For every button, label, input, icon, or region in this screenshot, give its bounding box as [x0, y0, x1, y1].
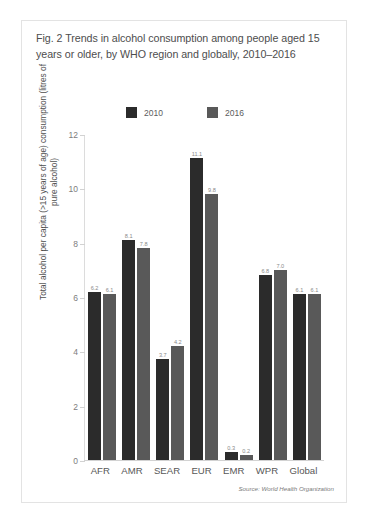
- bar-WPR-2016[interactable]: 7.0: [274, 135, 287, 460]
- bar-group-SEAR: 3.74.2: [156, 135, 184, 460]
- x-axis-label-EUR: EUR: [191, 465, 211, 476]
- y-tick-mark: [80, 461, 85, 462]
- legend-swatch-icon: [207, 107, 218, 118]
- y-tick-label: 8: [58, 239, 78, 249]
- bar-rect[interactable]: [259, 275, 272, 460]
- bar-EUR-2016[interactable]: 9.8: [205, 135, 218, 460]
- bar-AFR-2010[interactable]: 6.2: [88, 135, 101, 460]
- bar-SEAR-2016[interactable]: 4.2: [171, 135, 184, 460]
- bar-value-label: 6.1: [311, 287, 319, 293]
- bar-EMR-2010[interactable]: 0.3: [225, 135, 238, 460]
- chart-legend: 20102016: [22, 107, 348, 118]
- bar-group-EMR: 0.30.2: [225, 135, 253, 460]
- bar-AFR-2016[interactable]: 6.1: [103, 135, 116, 460]
- y-tick-label: 2: [58, 402, 78, 412]
- figure-card: Fig. 2 Trends in alcohol consumption amo…: [21, 20, 347, 503]
- y-axis-title: Total alcohol per capita (>15 years of a…: [38, 62, 60, 302]
- bar-rect[interactable]: [137, 248, 150, 460]
- bar-value-label: 6.2: [91, 285, 99, 291]
- bar-rect[interactable]: [293, 294, 306, 460]
- bar-EMR-2016[interactable]: 0.2: [240, 135, 253, 460]
- bar-rect[interactable]: [225, 452, 238, 460]
- bar-value-label: 11.1: [192, 151, 202, 157]
- plot-area: 024681012 6.26.18.17.83.74.211.19.80.30.…: [84, 135, 324, 461]
- y-tick-label: 6: [58, 293, 78, 303]
- x-axis-line: [84, 460, 324, 461]
- bar-rect[interactable]: [156, 359, 169, 460]
- bar-value-label: 4.2: [174, 339, 182, 345]
- bar-rect[interactable]: [171, 346, 184, 460]
- bar-EUR-2010[interactable]: 11.1: [190, 135, 203, 460]
- bar-value-label: 6.8: [261, 268, 269, 274]
- y-tick-label: 4: [58, 347, 78, 357]
- bar-WPR-2010[interactable]: 6.8: [259, 135, 272, 460]
- legend-label: 2016: [225, 108, 244, 118]
- figure-title: Fig. 2 Trends in alcohol consumption amo…: [36, 31, 336, 62]
- bar-rect[interactable]: [88, 292, 101, 460]
- bar-value-label: 0.3: [227, 445, 235, 451]
- bar-rect[interactable]: [274, 270, 287, 460]
- bar-value-label: 8.1: [125, 233, 133, 239]
- bar-rect[interactable]: [122, 240, 135, 460]
- bar-group-AMR: 8.17.8: [122, 135, 150, 460]
- x-axis-label-SEAR: SEAR: [154, 465, 180, 476]
- bar-rect[interactable]: [103, 294, 116, 460]
- bar-rect[interactable]: [190, 158, 203, 460]
- bar-Global-2010[interactable]: 6.1: [293, 135, 306, 460]
- bar-value-label: 6.1: [106, 287, 114, 293]
- legend-swatch-icon: [126, 107, 137, 118]
- y-tick-label: 10: [58, 184, 78, 194]
- bar-rect[interactable]: [205, 194, 218, 460]
- bar-group-Global: 6.16.1: [293, 135, 321, 460]
- bar-SEAR-2010[interactable]: 3.7: [156, 135, 169, 460]
- legend-item-2010: 2010: [126, 107, 163, 118]
- x-axis-label-EMR: EMR: [223, 465, 244, 476]
- bar-AMR-2010[interactable]: 8.1: [122, 135, 135, 460]
- bar-group-EUR: 11.19.8: [190, 135, 218, 460]
- x-axis-category-labels: AFRAMRSEAREUREMRWPRGlobal: [85, 465, 323, 476]
- x-axis-label-AFR: AFR: [91, 465, 110, 476]
- bar-groups: 6.26.18.17.83.74.211.19.80.30.26.87.06.1…: [85, 135, 324, 460]
- bar-value-label: 7.0: [276, 263, 284, 269]
- y-tick-label: 0: [58, 456, 78, 466]
- source-note: Source: World Health Organization: [238, 485, 334, 492]
- legend-label: 2010: [144, 108, 163, 118]
- bar-rect[interactable]: [240, 455, 253, 460]
- y-tick-label: 12: [58, 130, 78, 140]
- bar-value-label: 0.2: [242, 448, 250, 454]
- x-axis-label-AMR: AMR: [121, 465, 142, 476]
- bar-group-WPR: 6.87.0: [259, 135, 287, 460]
- bar-group-AFR: 6.26.1: [88, 135, 116, 460]
- bar-value-label: 6.1: [296, 287, 304, 293]
- bar-value-label: 7.8: [140, 241, 148, 247]
- bar-rect[interactable]: [308, 294, 321, 460]
- bar-AMR-2016[interactable]: 7.8: [137, 135, 150, 460]
- bar-value-label: 9.8: [208, 187, 216, 193]
- bar-Global-2016[interactable]: 6.1: [308, 135, 321, 460]
- legend-item-2016: 2016: [207, 107, 244, 118]
- x-axis-label-WPR: WPR: [256, 465, 278, 476]
- bar-value-label: 3.7: [159, 352, 167, 358]
- x-axis-label-Global: Global: [290, 465, 318, 476]
